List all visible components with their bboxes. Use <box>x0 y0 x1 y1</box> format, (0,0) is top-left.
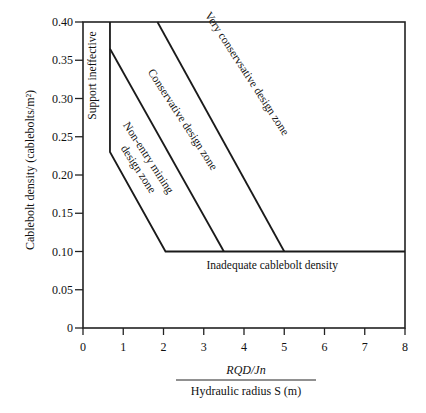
zone-boundary-line <box>157 22 284 252</box>
y-tick-label: 0.05 <box>52 283 73 297</box>
axes: 01234567800.050.100.150.200.250.300.350.… <box>23 15 408 398</box>
zone-label: Inadequate cablebolt density <box>206 259 338 272</box>
zone-label: Support ineffective <box>86 31 99 119</box>
x-tick-label: 7 <box>362 340 368 354</box>
y-tick-label: 0.15 <box>52 206 73 220</box>
x-tick-label: 8 <box>402 340 408 354</box>
x-tick-label: 3 <box>201 340 207 354</box>
x-tick-label: 4 <box>241 340 247 354</box>
x-axis-label-denominator: Hydraulic radius S (m) <box>191 384 301 398</box>
zone-boundary-lines <box>110 22 405 252</box>
x-tick-label: 6 <box>322 340 328 354</box>
x-tick-label: 0 <box>80 340 86 354</box>
chart: 01234567800.050.100.150.200.250.300.350.… <box>0 0 426 413</box>
x-tick-label: 5 <box>281 340 287 354</box>
y-tick-label: 0.10 <box>52 245 73 259</box>
x-tick-label: 2 <box>161 340 167 354</box>
y-tick-label: 0.40 <box>52 15 73 29</box>
y-tick-label: 0.20 <box>52 168 73 182</box>
x-tick-label: 1 <box>120 340 126 354</box>
x-axis-label-numerator: RQD/Jn <box>225 363 265 377</box>
y-axis-label: Cablebolt density (cablebolts/m²) <box>23 90 37 250</box>
zone-boundary-line <box>110 22 405 252</box>
zone-label: Very conservsative design zone <box>202 9 292 137</box>
y-tick-label: 0.30 <box>52 92 73 106</box>
y-tick-label: 0 <box>67 321 73 335</box>
y-tick-label: 0.35 <box>52 53 73 67</box>
zone-labels: Support ineffectiveNon-entry miningdesig… <box>86 9 338 272</box>
y-tick-label: 0.25 <box>52 130 73 144</box>
